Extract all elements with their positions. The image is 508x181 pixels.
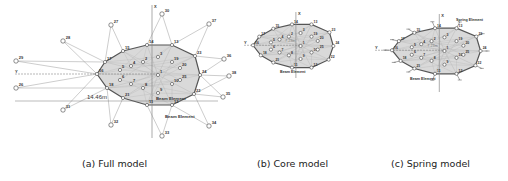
outer-node: [109, 123, 113, 127]
inner-node-label: 25: [465, 50, 469, 54]
outer-node: [61, 39, 65, 43]
inner-node-label: 1: [303, 41, 305, 45]
hull-node-label: 23: [478, 32, 482, 36]
beam-element-line: [16, 74, 97, 88]
inner-node-label: 4: [423, 40, 425, 44]
inner-node-label: 20: [465, 41, 469, 45]
beam-element-line: [16, 61, 97, 74]
inner-node-label: 6: [273, 45, 275, 49]
hull-node-label: 14: [437, 24, 441, 28]
hull-node-label: 16: [255, 41, 259, 45]
hull-node-label: 17: [107, 56, 112, 61]
hull-node-label: 22: [478, 61, 482, 65]
beam-element-line: [162, 14, 172, 45]
beam-element-line: [63, 41, 97, 74]
beam-element-label: Beam Element: [410, 77, 436, 81]
inner-node-label: 7: [423, 53, 425, 57]
hull-node-label: 22: [196, 88, 201, 93]
hull-node-label: 11: [294, 63, 298, 67]
hull-node-label: 21: [416, 64, 420, 68]
hull-node-label: 18: [109, 82, 114, 87]
y-axis-label: Y: [244, 40, 247, 45]
outer-node-label: 36: [227, 53, 232, 58]
y-axis-label: Y: [15, 69, 18, 74]
inner-node-label: 5: [273, 38, 275, 42]
hull-node-label: 11: [437, 69, 441, 73]
outer-node-label: 31: [66, 104, 71, 109]
spring-model-panel: XY7.23m161715141323242212112118123456789…: [370, 0, 508, 150]
outer-node-label: 27: [114, 19, 119, 24]
hull-node-label: 17: [261, 32, 265, 36]
outer-node: [221, 95, 225, 99]
hull-node-label: 18: [263, 51, 267, 55]
outer-node: [222, 57, 226, 61]
inner-node-label: 19: [314, 32, 318, 36]
hull-node-label: 15: [125, 45, 130, 50]
hull-node-label: 17: [401, 37, 405, 41]
inner-node-label: 8: [291, 51, 293, 55]
hull-node-label: 16: [99, 68, 104, 73]
full-model-diagram: XY14.46m16171514132324221211211812345678…: [0, 0, 254, 150]
full-model-panel: XY14.46m16171514132324221211211812345678…: [0, 0, 254, 150]
outer-node: [14, 59, 18, 63]
beam-element-line: [107, 88, 111, 125]
hull-node-label: 23: [332, 28, 336, 32]
core-model-diagram: XY7.23m161715141323242212112118123456789…: [240, 0, 365, 150]
hull-node-label: 15: [416, 28, 420, 32]
outer-node-label: 30: [165, 8, 170, 13]
hull-node-label: 12: [314, 63, 318, 67]
beam-element-line: [194, 94, 223, 97]
inner-node-label: 9: [303, 54, 305, 58]
outer-node-label: 34: [212, 120, 217, 125]
beam-element-line: [111, 25, 123, 51]
beam-element-line: [63, 41, 105, 62]
beam-element-label: Beam Element: [280, 70, 306, 74]
beam-element-line: [200, 75, 223, 97]
outer-node-label: 32: [114, 119, 119, 124]
outer-node: [227, 74, 231, 78]
beam-element-line: [194, 94, 209, 126]
hull-node-label: 13: [314, 20, 318, 24]
spring-element-label: Spring Element: [456, 18, 484, 22]
hull-node-label: 14: [149, 39, 154, 44]
hull-node-label: 21: [275, 58, 279, 62]
inner-node-label: 2: [291, 32, 293, 36]
caption-full-model: (a) Full model: [82, 158, 147, 169]
inner-node-label: 6: [414, 50, 416, 54]
outer-node-label: 35: [226, 91, 231, 96]
inner-node-label: 2: [434, 37, 436, 41]
outer-node: [109, 23, 113, 27]
inner-node-label: 25: [182, 74, 187, 79]
inner-node-label: 19: [174, 56, 179, 61]
inner-node-label: 20: [182, 62, 187, 67]
x-axis-label: X: [154, 4, 157, 9]
outer-node-label: 37: [212, 18, 217, 23]
hull-node-label: 21: [125, 92, 130, 97]
outer-node-label: 28: [66, 35, 71, 40]
core-model-panel: XY7.23m161715141323242212112118123456789…: [240, 0, 365, 150]
outer-node: [61, 108, 65, 112]
hull-node-label: 24: [335, 41, 339, 45]
x-axis-label: X: [441, 13, 444, 18]
caption-core-model: (b) Core model: [257, 158, 328, 169]
hull-node-label: 24: [202, 69, 207, 74]
outer-node-label: 38: [232, 70, 237, 75]
beam-element-line: [147, 105, 162, 136]
hull-node-label: 13: [459, 24, 463, 28]
beam-element-label: Beam Element: [165, 114, 195, 119]
hull-node-label: 22: [331, 55, 335, 59]
inner-node-label: 3: [303, 28, 305, 32]
caption-spring-model: (c) Spring model: [391, 158, 470, 169]
hull-node-label: 18: [403, 56, 407, 60]
dimension-label: 7.23m: [427, 44, 438, 48]
beam-element-label: Beam Element: [156, 96, 186, 101]
outer-node-label: 33: [165, 130, 170, 135]
beam-element-line: [195, 56, 224, 59]
outer-node: [207, 124, 211, 128]
inner-node-label: 7: [282, 48, 284, 52]
hull-node-label: 13: [174, 39, 179, 44]
hull-node-label: 15: [275, 24, 279, 28]
inner-node-label: 5: [414, 43, 416, 47]
inner-node-label: 19: [459, 37, 463, 41]
inner-node-label: 20: [320, 36, 324, 40]
